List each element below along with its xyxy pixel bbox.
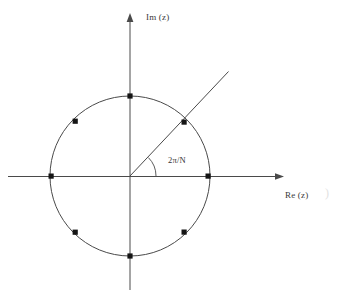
real-axis-arrow-icon — [275, 173, 284, 180]
root-point-marker — [73, 119, 78, 124]
root-point-marker — [127, 93, 132, 98]
root-point-marker — [73, 230, 78, 235]
root-point-marker — [182, 120, 187, 125]
plot-canvas — [0, 0, 338, 305]
root-point-marker — [127, 253, 132, 258]
real-axis-label: Re (z) — [285, 190, 308, 200]
angle-label: 2π/N — [168, 155, 186, 165]
root-point-marker — [49, 174, 54, 179]
imaginary-axis — [127, 13, 134, 290]
root-point-marker — [206, 174, 211, 179]
imaginary-axis-arrow-icon — [127, 13, 134, 22]
imaginary-axis-label: Im (z) — [146, 12, 169, 22]
corner-artifact-mark: ) — [325, 186, 329, 201]
angle-arc — [148, 158, 156, 176]
complex-plane-figure: Im (z) Re (z) 2π/N ) — [0, 0, 338, 305]
root-point-marker — [182, 230, 187, 235]
